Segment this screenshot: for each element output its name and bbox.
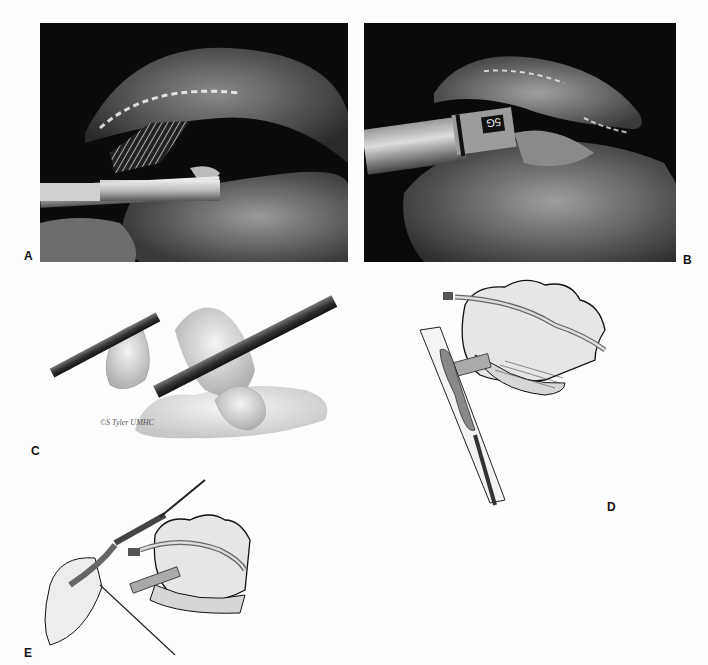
appendix-in-trocar-drawing: [395, 275, 625, 515]
laparoscopic-port-image: 5G: [364, 23, 676, 262]
appendix-extraction-drawing: [40, 475, 280, 655]
panel-label-e: E: [24, 646, 32, 660]
panel-label-b: B: [683, 253, 692, 267]
panel-label-a: A: [24, 249, 33, 263]
illustrator-credit: ©S Tyler UMHC: [100, 418, 154, 427]
panel-label-d: D: [607, 500, 616, 514]
panel-b-photo: 5G: [364, 23, 676, 262]
graspers-appendix-illustration: [45, 280, 345, 440]
panel-a-photo: [40, 23, 348, 262]
panel-e-drawing: [40, 475, 280, 655]
panel-d-drawing: [395, 275, 625, 515]
port-marking: 5G: [485, 116, 501, 130]
laparoscopic-stapler-image: [40, 23, 348, 262]
panel-label-c: C: [31, 444, 40, 458]
panel-c-illustration: [45, 280, 345, 440]
